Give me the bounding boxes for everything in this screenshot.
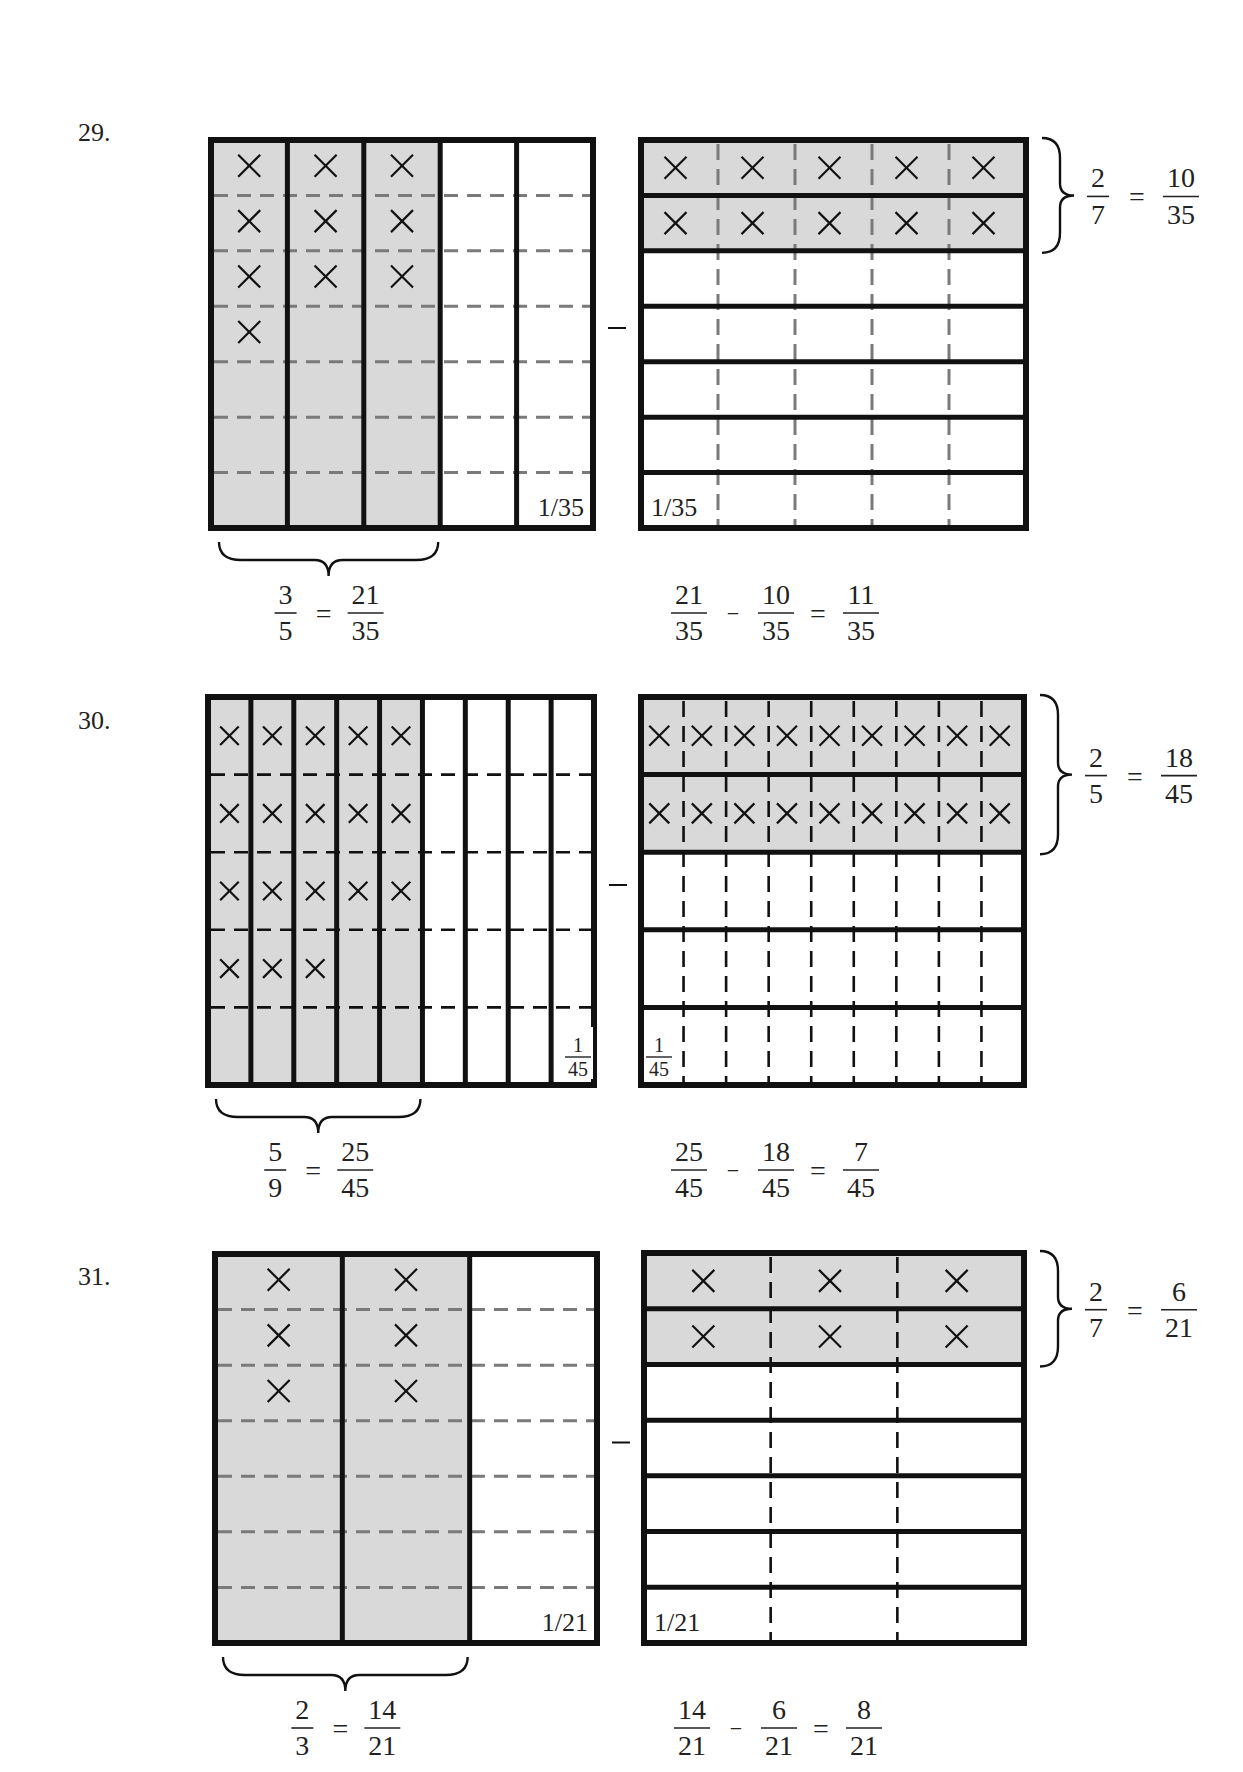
fraction: 27 bbox=[1085, 1276, 1107, 1343]
unit-fraction-label: 1/21 bbox=[542, 1608, 588, 1637]
denominator: 21 bbox=[678, 1730, 706, 1761]
equals-sign: = bbox=[810, 598, 826, 629]
bottom-brace-icon bbox=[216, 1099, 420, 1133]
denominator: 45 bbox=[675, 1172, 703, 1203]
right-brace-icon bbox=[1040, 695, 1072, 854]
numerator: 6 bbox=[1172, 1276, 1186, 1307]
equals-sign: = bbox=[1129, 181, 1145, 212]
denominator: 45 bbox=[762, 1172, 790, 1203]
numerator: 11 bbox=[848, 579, 875, 610]
fraction: 1035 bbox=[758, 579, 794, 646]
fraction: 2135 bbox=[671, 579, 707, 646]
fraction: 2545 bbox=[337, 1136, 373, 1203]
denominator: 35 bbox=[1167, 199, 1195, 230]
fraction: 59 bbox=[264, 1136, 286, 1203]
equals-sign: = bbox=[305, 1155, 321, 1186]
denominator: 35 bbox=[847, 615, 875, 646]
problem-31: 1/211/2127=62123=14211421−621=821 bbox=[215, 1251, 1197, 1761]
numerator: 14 bbox=[678, 1694, 706, 1725]
numerator: 21 bbox=[675, 579, 703, 610]
numerator: 2 bbox=[1091, 162, 1105, 193]
denominator: 9 bbox=[268, 1172, 282, 1203]
result-equation: 2135−1035=1135 bbox=[671, 579, 879, 646]
equals-sign: = bbox=[1127, 1295, 1143, 1326]
denominator: 21 bbox=[368, 1730, 396, 1761]
minus-operator: − bbox=[727, 1158, 739, 1183]
denominator: 21 bbox=[1165, 1312, 1193, 1343]
bottom-brace-icon bbox=[223, 1657, 468, 1691]
fraction: 2545 bbox=[671, 1136, 707, 1203]
fraction: 23 bbox=[291, 1694, 313, 1761]
denominator: 45 bbox=[568, 1058, 588, 1080]
numerator: 10 bbox=[1167, 162, 1195, 193]
fraction: 25 bbox=[1085, 742, 1107, 809]
right-brace-icon bbox=[1040, 1251, 1072, 1366]
unit-fraction-label: 145 bbox=[563, 1027, 593, 1080]
left-brace-equation: 23=1421 bbox=[291, 1694, 400, 1761]
right-brace-icon bbox=[1042, 138, 1074, 253]
fraction: 1421 bbox=[364, 1694, 400, 1761]
problem-29: 1/351/3527=103535=21352135−1035=1135 bbox=[211, 138, 1199, 646]
fraction: 1421 bbox=[674, 1694, 710, 1761]
denominator: 45 bbox=[1165, 778, 1193, 809]
fraction: 1845 bbox=[758, 1136, 794, 1203]
right-area-model: 1/35 bbox=[641, 138, 1074, 528]
fraction: 1035 bbox=[1163, 162, 1199, 229]
numerator: 25 bbox=[675, 1136, 703, 1167]
numerator: 1 bbox=[654, 1034, 664, 1056]
right-area-model: 1/21 bbox=[644, 1251, 1072, 1643]
numerator: 7 bbox=[854, 1136, 868, 1167]
minus-operator: − bbox=[727, 601, 739, 626]
left-brace-equation: 35=2135 bbox=[275, 579, 384, 646]
denominator: 3 bbox=[295, 1730, 309, 1761]
fraction: 35 bbox=[275, 579, 297, 646]
fraction: 621 bbox=[761, 1694, 797, 1761]
left-area-model: 1/35 bbox=[211, 140, 593, 576]
left-area-model: 145 bbox=[208, 697, 594, 1133]
left-area-model: 1/21 bbox=[215, 1254, 597, 1691]
numerator: 6 bbox=[772, 1694, 786, 1725]
numerator: 10 bbox=[762, 579, 790, 610]
right-area-model: 145 bbox=[641, 695, 1072, 1085]
unit-fraction-label: 145 bbox=[644, 1027, 674, 1080]
equals-sign: = bbox=[813, 1713, 829, 1744]
result-equation: 2545−1845=745 bbox=[671, 1136, 879, 1203]
denominator: 45 bbox=[649, 1058, 669, 1080]
fraction: 2135 bbox=[348, 579, 384, 646]
fraction: 1135 bbox=[843, 579, 879, 646]
denominator: 45 bbox=[847, 1172, 875, 1203]
numerator: 2 bbox=[1089, 1276, 1103, 1307]
denominator: 45 bbox=[341, 1172, 369, 1203]
numerator: 25 bbox=[341, 1136, 369, 1167]
denominator: 21 bbox=[765, 1730, 793, 1761]
denominator: 5 bbox=[279, 615, 293, 646]
unit-fraction-label: 1/21 bbox=[654, 1608, 700, 1637]
numerator: 14 bbox=[368, 1694, 396, 1725]
equals-sign: = bbox=[810, 1155, 826, 1186]
right-brace-equation: 27=1035 bbox=[1087, 162, 1199, 229]
numerator: 18 bbox=[762, 1136, 790, 1167]
denominator: 7 bbox=[1089, 1312, 1103, 1343]
fraction: 745 bbox=[843, 1136, 879, 1203]
fraction: 27 bbox=[1087, 162, 1109, 229]
numerator: 2 bbox=[1089, 742, 1103, 773]
fraction: 821 bbox=[846, 1694, 882, 1761]
numerator: 21 bbox=[352, 579, 380, 610]
denominator: 35 bbox=[675, 615, 703, 646]
area-model-diagrams: 1/351/3527=103535=21352135−1035=11351451… bbox=[0, 0, 1243, 1772]
result-equation: 1421−621=821 bbox=[674, 1694, 882, 1761]
problem-30: 14514525=184559=25452545−1845=745 bbox=[208, 695, 1197, 1203]
denominator: 21 bbox=[850, 1730, 878, 1761]
denominator: 35 bbox=[762, 615, 790, 646]
denominator: 5 bbox=[1089, 778, 1103, 809]
equals-sign: = bbox=[332, 1713, 348, 1744]
denominator: 35 bbox=[352, 615, 380, 646]
numerator: 18 bbox=[1165, 742, 1193, 773]
left-brace-equation: 59=2545 bbox=[264, 1136, 373, 1203]
numerator: 8 bbox=[857, 1694, 871, 1725]
numerator: 5 bbox=[268, 1136, 282, 1167]
bottom-brace-icon bbox=[219, 542, 438, 576]
fraction-subtraction-worksheet: 29. 30. 31. 1/351/3527=103535=21352135−1… bbox=[0, 0, 1243, 1772]
right-brace-equation: 25=1845 bbox=[1085, 742, 1197, 809]
fraction: 1845 bbox=[1161, 742, 1197, 809]
